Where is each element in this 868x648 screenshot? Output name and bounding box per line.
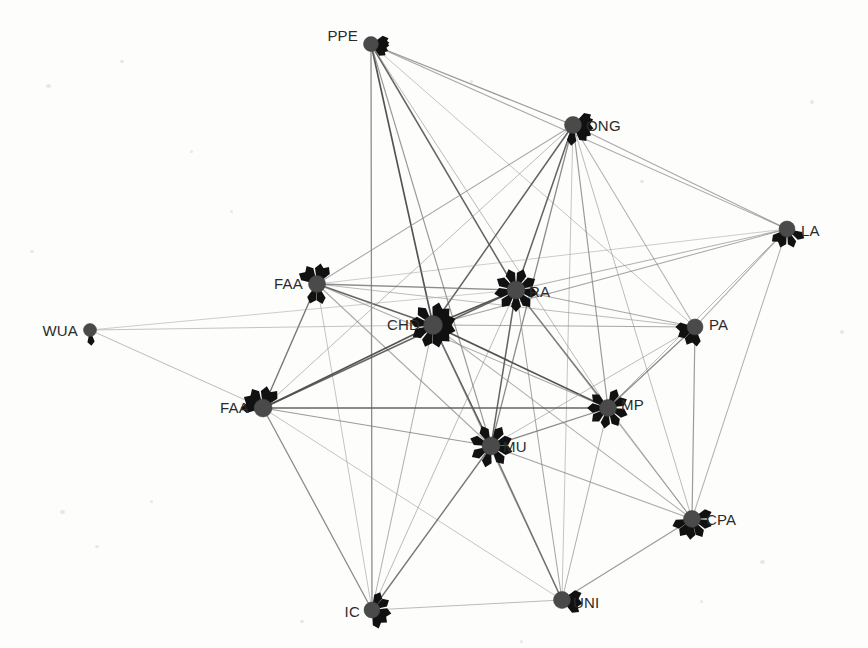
graph-edge	[695, 229, 787, 327]
graph-edge	[263, 284, 317, 408]
node-core-circle[interactable]	[84, 324, 97, 337]
graph-edge	[263, 125, 573, 408]
graph-node-chd[interactable]: CHD	[387, 303, 456, 348]
node-label: CHD	[387, 316, 420, 333]
graph-edge	[608, 229, 787, 408]
graph-edge	[433, 325, 608, 408]
node-core-circle[interactable]	[364, 37, 379, 52]
node-core-circle[interactable]	[507, 281, 525, 299]
node-core-circle[interactable]	[687, 319, 703, 335]
node-core-circle[interactable]	[364, 602, 380, 618]
node-core-circle[interactable]	[424, 316, 443, 335]
node-label: PA	[709, 316, 728, 333]
graph-edge	[608, 408, 692, 519]
graph-node-ong[interactable]: ONG	[565, 113, 621, 146]
graph-node-cpa[interactable]: CPA	[672, 509, 736, 540]
graph-edge	[371, 44, 433, 325]
graph-edge	[263, 325, 433, 408]
node-core-circle[interactable]	[554, 592, 571, 609]
graph-edge	[573, 125, 787, 229]
graph-edge	[371, 44, 573, 125]
nodes-layer: PPEONGLAFAARACHDWUAPAFAAMPMUCPAICUNI	[42, 27, 819, 628]
graph-edge	[433, 325, 692, 519]
graph-edge	[692, 327, 695, 519]
graph-edge	[317, 125, 573, 284]
graph-edge	[263, 408, 372, 610]
node-label: MP	[621, 396, 644, 413]
graph-node-faa[interactable]: FAA	[274, 263, 330, 304]
graph-node-mp[interactable]: MP	[587, 389, 644, 428]
node-core-circle[interactable]	[254, 399, 272, 417]
node-label: CPA	[706, 511, 736, 528]
graph-edge	[90, 330, 263, 408]
node-core-circle[interactable]	[684, 511, 701, 528]
graph-edge	[562, 519, 692, 600]
node-core-circle[interactable]	[565, 117, 582, 134]
graph-node-pa[interactable]: PA	[675, 316, 728, 347]
node-label: UNI	[573, 594, 599, 611]
node-label: WUA	[42, 322, 78, 339]
graph-edge	[433, 325, 695, 327]
graph-node-mu[interactable]: MU	[470, 426, 526, 467]
graph-edge	[371, 44, 516, 290]
graph-edge	[516, 125, 573, 290]
node-label: MU	[503, 438, 527, 455]
graph-edge	[573, 125, 692, 519]
graph-edge	[372, 600, 562, 610]
graph-edge	[371, 44, 608, 408]
graph-edge	[692, 229, 787, 519]
graph-node-wua[interactable]: WUA	[42, 322, 96, 346]
graph-node-faa[interactable]: FAA	[220, 386, 277, 417]
graph-edge	[371, 44, 372, 610]
graph-edge	[573, 125, 695, 327]
network-graph-svg: PPEONGLAFAARACHDWUAPAFAAMPMUCPAICUNI	[0, 0, 868, 648]
node-core-circle[interactable]	[482, 437, 500, 455]
node-label: RA	[529, 283, 550, 300]
node-label: ONG	[586, 117, 621, 134]
graph-edge	[433, 229, 787, 325]
graph-node-ppe[interactable]: PPE	[327, 27, 389, 56]
node-core-circle[interactable]	[779, 221, 795, 237]
graph-edge	[491, 290, 516, 446]
graph-edge	[516, 229, 787, 290]
graph-node-uni[interactable]: UNI	[554, 590, 600, 613]
node-core-circle[interactable]	[600, 400, 617, 417]
graph-edge	[573, 125, 608, 408]
graph-edge	[317, 284, 372, 610]
graph-edge	[562, 408, 608, 600]
node-label: FAA	[220, 399, 249, 416]
graph-edge	[491, 446, 692, 519]
graph-edge	[90, 325, 433, 330]
graph-edge	[317, 284, 608, 408]
node-label: PPE	[327, 27, 358, 44]
node-core-circle[interactable]	[309, 276, 326, 293]
node-label: FAA	[274, 275, 303, 292]
node-label: LA	[801, 222, 820, 239]
graph-node-ic[interactable]: IC	[345, 592, 392, 628]
node-label: IC	[345, 603, 360, 620]
network-graph-canvas: PPEONGLAFAARACHDWUAPAFAAMPMUCPAICUNI	[0, 0, 868, 648]
graph-edge	[317, 229, 787, 284]
